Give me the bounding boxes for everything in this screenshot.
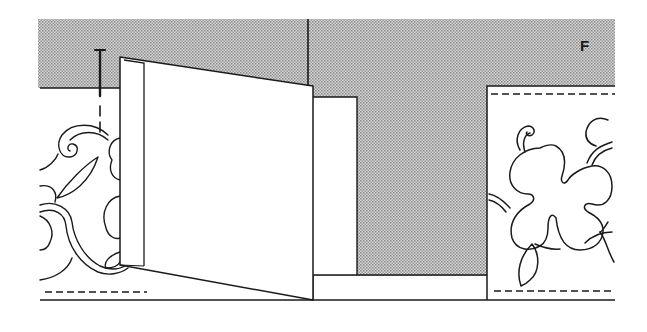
diagram-figure: F [0, 0, 647, 332]
illustration-canvas [0, 0, 647, 332]
right-floral-panel [487, 86, 615, 300]
panel-label: F [580, 37, 589, 54]
open-flap [120, 57, 313, 300]
